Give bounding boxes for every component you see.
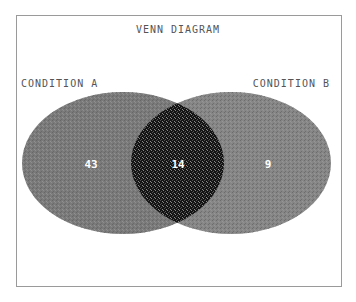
venn-diagram: 43 14 9	[0, 0, 356, 302]
intersection-value: 14	[171, 158, 185, 171]
a-only-value: 43	[84, 158, 97, 171]
b-only-value: 9	[265, 158, 272, 171]
